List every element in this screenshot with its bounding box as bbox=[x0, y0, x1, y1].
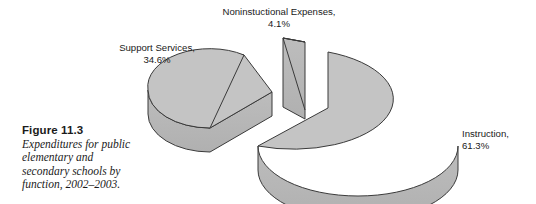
pie-slice-instruction-side bbox=[258, 146, 458, 204]
slice-label-instruction-name: Instruction, bbox=[462, 128, 536, 140]
figure-caption-line-1: Expenditures for bbox=[22, 138, 99, 150]
slice-label-noninstructional-name: Noninstuctional Expenses, bbox=[204, 6, 354, 18]
slice-label-support-services: Support Services, 34.6% bbox=[94, 42, 220, 65]
figure-caption-text: Expenditures for public elementary and s… bbox=[22, 138, 142, 192]
slice-label-instruction-percent: 61.3% bbox=[462, 140, 536, 152]
figure-caption: Figure 11.3 Expenditures for public elem… bbox=[22, 124, 142, 192]
slice-label-noninstructional: Noninstuctional Expenses, 4.1% bbox=[204, 6, 354, 29]
pie-slice-instruction-top bbox=[258, 52, 393, 149]
slice-label-support-services-name: Support Services, bbox=[94, 42, 220, 54]
figure-caption-line-4: function, 2002–2003. bbox=[22, 178, 120, 190]
slice-label-instruction: Instruction, 61.3% bbox=[462, 128, 536, 151]
figure-number: Figure 11.3 bbox=[22, 124, 142, 137]
slice-label-noninstructional-percent: 4.1% bbox=[204, 18, 354, 30]
figure-container: Noninstuctional Expenses, 4.1% Support S… bbox=[0, 0, 536, 204]
figure-caption-line-3: secondary schools by bbox=[22, 165, 120, 177]
slice-label-support-services-percent: 34.6% bbox=[94, 54, 220, 66]
pie-slice-noninstructional bbox=[283, 38, 305, 119]
